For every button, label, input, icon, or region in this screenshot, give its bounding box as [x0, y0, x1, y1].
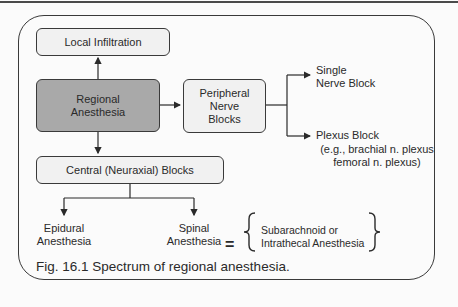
plexus-block-examples: (e.g., brachial n. plexus femoral n. ple… — [316, 143, 438, 169]
regional-anesthesia-label: Regional Anesthesia — [71, 93, 125, 119]
figure-caption: Fig. 16.1 Spectrum of regional anesthesi… — [36, 259, 290, 275]
peripheral-nerve-blocks-label: Peripheral Nerve Blocks — [199, 87, 249, 126]
epidural-anesthesia-label: Epidural Anesthesia — [24, 222, 104, 248]
equals-sign: = — [225, 236, 234, 254]
local-infiltration-box: Local Infiltration — [36, 28, 170, 56]
spinal-synonyms-label: Subarachnoid or Intrathecal Anesthesia — [261, 224, 364, 249]
central-blocks-label: Central (Neuraxial) Blocks — [66, 164, 194, 177]
regional-anesthesia-box: Regional Anesthesia — [36, 79, 160, 132]
plexus-block-title: Plexus Block — [316, 129, 379, 142]
single-nerve-block-label: Single Nerve Block — [316, 64, 375, 90]
spinal-anesthesia-label: Spinal Anesthesia — [154, 222, 234, 248]
peripheral-nerve-blocks-box: Peripheral Nerve Blocks — [183, 79, 266, 133]
central-blocks-box: Central (Neuraxial) Blocks — [36, 156, 224, 184]
local-infiltration-label: Local Infiltration — [64, 36, 141, 49]
